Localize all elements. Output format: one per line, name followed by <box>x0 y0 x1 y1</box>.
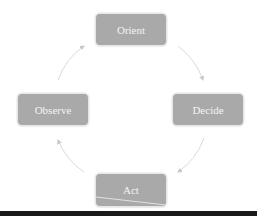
node-decide: Decide <box>173 94 243 125</box>
node-orient: Orient <box>96 14 166 45</box>
arrow-orient-to-decide <box>178 46 203 80</box>
node-label: Observe <box>35 104 72 116</box>
bottom-bar <box>0 211 257 216</box>
arrow-decide-to-act <box>178 138 204 172</box>
node-label: Orient <box>117 24 145 36</box>
node-label: Decide <box>192 104 223 116</box>
node-act: Act <box>96 174 166 206</box>
arrow-act-to-observe <box>58 140 84 172</box>
node-label: Act <box>123 184 139 196</box>
arrow-observe-to-orient <box>58 46 84 80</box>
node-observe: Observe <box>18 94 88 125</box>
